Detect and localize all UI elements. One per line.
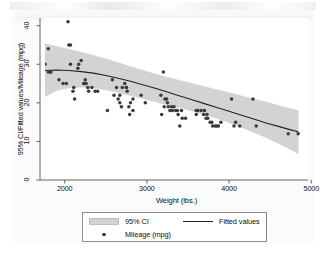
legend-item-ci: 95% CI xyxy=(89,215,149,228)
scatter-point xyxy=(84,82,88,86)
y-tick-label: 20 xyxy=(22,92,31,112)
scatter-point xyxy=(127,105,131,109)
scatter-point xyxy=(230,97,234,101)
scatter-point xyxy=(111,78,115,82)
scatter-point xyxy=(159,93,163,97)
scatter-point xyxy=(112,93,116,97)
scatter-point xyxy=(69,43,73,47)
y-tick-label: 40 xyxy=(22,15,31,35)
plot-canvas xyxy=(45,18,308,180)
scatter-point xyxy=(205,113,209,117)
legend-label-mileage: Mileage (mpg) xyxy=(125,230,171,239)
scatter-point xyxy=(131,97,135,101)
scatter-point xyxy=(287,132,291,136)
scatter-point xyxy=(202,113,206,117)
scatter-point xyxy=(162,105,166,109)
scatter-point xyxy=(66,20,70,24)
scatter-point xyxy=(162,70,166,74)
scatter-point xyxy=(49,70,53,74)
scatter-point xyxy=(210,120,214,124)
scatter-point xyxy=(128,113,131,117)
scatter-point xyxy=(219,120,223,124)
scatter-point xyxy=(79,59,83,63)
scatter-point xyxy=(171,109,175,113)
marker-dot-icon xyxy=(89,233,119,236)
scatter-point xyxy=(206,117,210,121)
scatter-point xyxy=(144,101,148,105)
scatter-point xyxy=(254,124,258,128)
scatter-point xyxy=(125,86,128,90)
scatter-point xyxy=(84,78,88,82)
scatter-point xyxy=(65,82,69,86)
x-tick-label: 3000 xyxy=(130,184,164,193)
chart-legend: 95% CI Mileage (mpg) Fitted values xyxy=(82,212,267,242)
scan-artifact-top xyxy=(10,2,316,10)
fitted-line-icon xyxy=(183,221,213,222)
scatter-point xyxy=(121,86,125,90)
legend-label-fitted: Fitted values xyxy=(219,217,260,226)
y-tick-label: 0 xyxy=(22,170,31,190)
x-axis-title: Weight (lbs.) xyxy=(45,196,308,205)
legend-label-ci: 95% CI xyxy=(125,217,149,226)
scatter-point xyxy=(238,124,242,128)
scatter-point xyxy=(167,105,171,109)
scatter-point xyxy=(160,113,164,117)
scatter-point xyxy=(217,124,221,128)
scatter-point xyxy=(57,78,61,82)
scatter-point xyxy=(87,90,91,94)
scatter-point xyxy=(251,97,255,101)
scatter-point xyxy=(203,109,207,113)
scatter-point xyxy=(72,86,76,90)
scatter-point xyxy=(199,109,203,113)
scatter-point xyxy=(166,101,170,105)
scatter-point xyxy=(90,86,94,90)
x-tick-label: 5000 xyxy=(294,184,326,193)
scatter-point xyxy=(194,113,198,117)
scatter-point xyxy=(86,86,90,90)
scatter-point xyxy=(129,101,133,105)
y-tick-label: 30 xyxy=(22,54,31,74)
scatter-point xyxy=(71,90,75,94)
scatter-point xyxy=(69,63,73,67)
scatter-point xyxy=(165,97,169,101)
scatter-point xyxy=(123,82,127,86)
scatter-point xyxy=(77,63,81,67)
scatter-point xyxy=(234,120,238,124)
x-tick-label: 2000 xyxy=(48,184,82,193)
scatter-point xyxy=(232,124,236,128)
scatter-point xyxy=(106,109,110,113)
scatter-point xyxy=(184,117,188,121)
scatter-point xyxy=(178,124,182,128)
y-tick-label: 10 xyxy=(22,131,31,151)
scatter-point xyxy=(118,93,122,97)
scatter-point xyxy=(115,86,119,90)
scatter-point xyxy=(73,97,77,101)
scatter-point xyxy=(120,105,124,109)
plot-area xyxy=(45,18,308,180)
scatter-point xyxy=(181,117,185,121)
ci-band-layer xyxy=(45,44,298,154)
scatter-point xyxy=(96,90,100,94)
scatter-point xyxy=(176,113,180,117)
ci-band-swatch-icon xyxy=(89,218,119,225)
scatter-point xyxy=(47,47,51,51)
scatter-point xyxy=(296,132,300,136)
scatter-point xyxy=(172,105,176,109)
scatter-point xyxy=(116,97,120,101)
chart-figure: 95% CI/Fitted values/Mileage (mpg) 01020… xyxy=(0,0,326,257)
scatter-point xyxy=(118,101,122,105)
legend-item-fitted: Fitted values xyxy=(183,215,260,228)
scatter-point xyxy=(131,109,135,113)
scatter-point xyxy=(176,109,180,113)
scatter-point xyxy=(61,82,65,86)
scatter-point xyxy=(125,90,129,94)
scatter-point xyxy=(139,93,143,97)
scatter-point xyxy=(196,109,200,113)
scatter-point xyxy=(180,109,184,113)
scatter-point xyxy=(76,66,80,70)
legend-item-mileage: Mileage (mpg) xyxy=(89,228,171,241)
x-tick-label: 4000 xyxy=(212,184,246,193)
